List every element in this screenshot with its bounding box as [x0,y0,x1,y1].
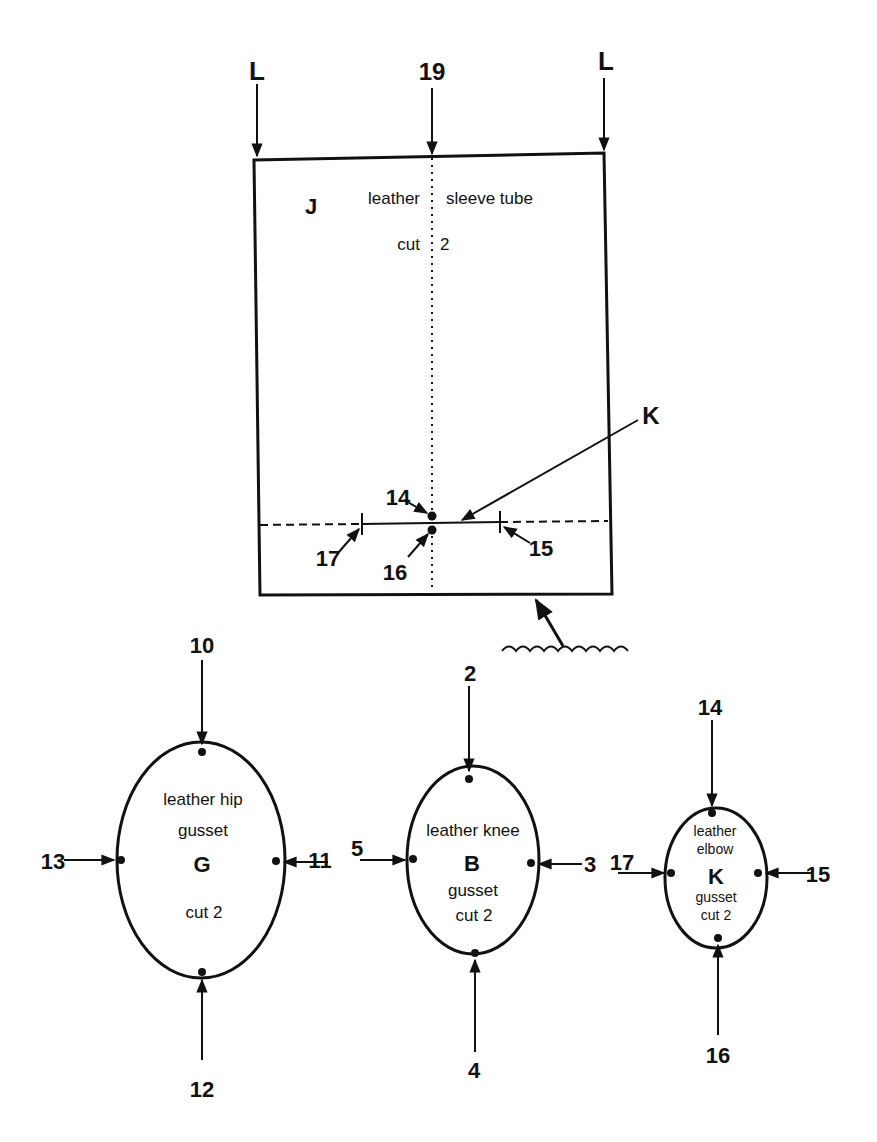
label-17-k: 17 [610,850,634,875]
dot-16 [428,526,437,535]
dot-14-k [708,809,716,817]
gusset-g-line2: gusset [178,821,228,840]
dot-16-k [714,934,722,942]
text-leather: leather [368,189,420,208]
label-16-k: 16 [706,1043,730,1068]
gusset-b-letter: B [464,851,480,876]
label-5: 5 [351,836,363,861]
gusset-k-line2: elbow [697,841,734,857]
label-2: 2 [464,661,476,686]
label-3: 3 [584,852,596,877]
placement-solid [362,522,500,524]
label-14: 14 [386,485,411,510]
knee-gusset-b: 2 4 5 3 leather knee B gusset cut 2 [351,661,596,1083]
dot-11 [272,857,280,865]
label-l-left: L [249,56,265,86]
placement-dash-left [260,524,362,525]
label-11: 11 [308,848,331,873]
label-14-k: 14 [698,695,723,720]
label-19: 19 [419,58,446,85]
arrow-16 [408,534,428,557]
label-15: 15 [529,536,553,561]
label-15-k: 15 [806,862,830,887]
label-4: 4 [468,1058,481,1083]
arrow-15 [504,527,530,543]
placement-dash-right [500,521,608,522]
pattern-diagram: L 19 L J leather sleeve tube cut 2 14 16… [0,0,877,1142]
gusset-k-cut: cut 2 [701,907,732,923]
dot-5 [409,855,417,863]
dot-4 [471,949,479,957]
gusset-k-letter: K [708,864,724,889]
gusset-g-line1: leather hip [163,790,242,809]
gusset-b-line2: gusset [448,881,498,900]
dot-13 [117,856,125,864]
label-16: 16 [383,560,407,585]
arrow-17 [338,529,359,553]
label-13: 13 [41,849,65,874]
text-cut-count: 2 [440,235,449,254]
gusset-g-letter: G [193,852,210,877]
gusset-k-line1: leather [694,823,737,839]
label-17: 17 [316,546,340,571]
dot-15-k [754,869,762,877]
arrow-edge [536,600,563,646]
gusset-g-cut: cut 2 [186,903,223,922]
label-l-right: L [598,46,614,76]
sleeve-tube-pattern-j: L 19 L J leather sleeve tube cut 2 14 16… [249,46,660,651]
wavy-edge-icon [502,647,628,652]
gusset-b-line1: leather knee [426,821,520,840]
text-sleeve-tube: sleeve tube [446,189,533,208]
elbow-gusset-k: 14 16 17 15 leather elbow K gusset cut 2 [610,695,830,1068]
dot-14 [428,512,437,521]
dot-2 [465,775,473,783]
dot-12 [198,968,206,976]
label-10: 10 [190,633,214,658]
text-cut: cut [397,235,420,254]
pattern-letter-j: J [305,194,317,219]
gusset-b-cut: cut 2 [456,906,493,925]
dot-3 [527,859,535,867]
dot-17-k [667,869,675,877]
dot-10 [198,748,206,756]
label-k-pointer: K [642,402,660,429]
label-12: 12 [190,1077,214,1102]
gusset-k-line3: gusset [695,889,736,905]
hip-gusset-g: 10 12 13 11 leather hip gusset G cut 2 [41,633,332,1102]
